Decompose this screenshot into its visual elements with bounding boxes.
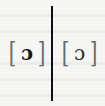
close-bracket: ] (90, 36, 98, 70)
ipa-symbol-right: [ ɔ ] (60, 36, 99, 70)
ipa-glyph-open-o-bold: ɔ (21, 36, 33, 70)
ipa-symbol-left: [ ɔ ] (7, 36, 47, 70)
document-page: [ ɔ ] [ ɔ ] (0, 0, 105, 106)
ipa-glyph-open-o-regular: ɔ (74, 36, 85, 70)
open-bracket: [ (62, 36, 70, 70)
vertical-divider (51, 6, 53, 101)
open-bracket: [ (9, 36, 17, 70)
close-bracket: ] (38, 36, 46, 70)
